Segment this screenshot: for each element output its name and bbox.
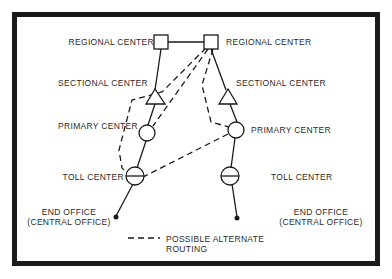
- link-toll-end-left: [116, 184, 133, 216]
- label-primary-center-left: PRIMARY CENTER: [58, 121, 138, 131]
- label-toll-center-right: TOLL CENTER: [271, 172, 332, 182]
- regional-center-left-square: [154, 35, 168, 49]
- label-end-office-right-line1: END OFFICE: [276, 207, 366, 217]
- label-regional-center-left: REGIONAL CENTER: [69, 37, 154, 47]
- link-sectional-primary-left: [148, 104, 155, 125]
- label-toll-center-left: TOLL CENTER: [63, 172, 124, 182]
- end-office-right-dot: [235, 216, 240, 221]
- label-end-office-right-line2: (CENTRAL OFFICE): [276, 217, 366, 227]
- label-primary-center-right: PRIMARY CENTER: [251, 125, 331, 135]
- primary-center-left-circle: [139, 125, 155, 141]
- alt-route-regional-right-to-toll-left: [119, 48, 206, 176]
- legend-label-line2: ROUTING: [166, 244, 264, 254]
- alt-route-regional-right-to-primary-left: [153, 49, 208, 126]
- label-sectional-center-left: SECTIONAL CENTER: [58, 78, 148, 88]
- link-regional-sectional-left: [155, 49, 161, 90]
- label-end-office-left-line1: END OFFICE: [24, 207, 114, 217]
- end-office-left-dot: [114, 215, 119, 220]
- link-primary-toll-right: [231, 138, 235, 168]
- link-primary-toll-left: [137, 141, 146, 168]
- legend-label: POSSIBLE ALTERNATE ROUTING: [166, 234, 264, 254]
- label-end-office-left: END OFFICE (CENTRAL OFFICE): [24, 207, 114, 227]
- sectional-center-right-triangle: [219, 89, 237, 104]
- primary-center-right-circle: [228, 122, 244, 138]
- label-sectional-center-right: SECTIONAL CENTER: [236, 78, 326, 88]
- link-regional-sectional-right: [211, 49, 226, 90]
- alt-route-primary-right-to-toll-left: [141, 134, 228, 178]
- link-toll-end-right: [232, 184, 237, 217]
- link-sectional-primary-right: [230, 104, 237, 122]
- label-end-office-left-line2: (CENTRAL OFFICE): [24, 217, 114, 227]
- label-end-office-right: END OFFICE (CENTRAL OFFICE): [276, 207, 366, 227]
- regional-center-right-square: [204, 35, 218, 49]
- legend-label-line1: POSSIBLE ALTERNATE: [166, 234, 264, 244]
- label-regional-center-right: REGIONAL CENTER: [226, 37, 311, 47]
